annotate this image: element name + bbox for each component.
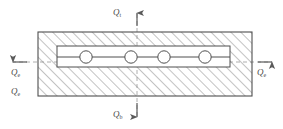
heat-flux-diagram	[0, 0, 283, 129]
label-right-subscript: e	[264, 72, 267, 78]
label-top-subscript: t	[120, 12, 122, 18]
tube-circle	[80, 51, 92, 63]
label-left-symbol: Q	[11, 67, 18, 77]
label-bottom-heat-flux: Qb	[113, 110, 123, 119]
tube-circle	[125, 51, 137, 63]
label-left-subscript: e	[18, 72, 21, 78]
tube-circle	[199, 51, 211, 63]
label-right-symbol: Q	[257, 67, 264, 77]
label-right-heat-flux: Qe	[257, 68, 266, 77]
tube-circle	[158, 51, 170, 63]
label-lower-left-heat-flux: Qe	[11, 87, 20, 96]
label-bottom-symbol: Q	[113, 109, 120, 119]
label-lower-left-symbol: Q	[11, 86, 18, 96]
label-left-heat-flux: Qe	[11, 68, 20, 77]
label-bottom-subscript: b	[120, 114, 123, 120]
label-lower-left-subscript: e	[18, 91, 21, 97]
label-top-symbol: Q	[113, 7, 120, 17]
label-top-heat-flux: Qt	[113, 8, 121, 17]
